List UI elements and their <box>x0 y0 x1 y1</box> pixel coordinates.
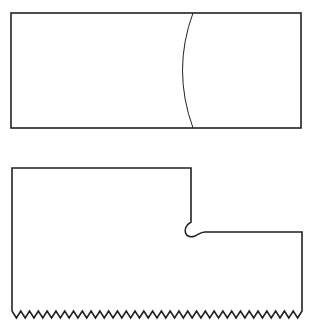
top-rectangle <box>11 13 301 128</box>
bottom-stepped-shape <box>12 168 302 318</box>
stepped-piece-outline <box>12 168 302 318</box>
curved-dividing-line <box>183 13 194 128</box>
top-rectangle-shape <box>11 13 301 128</box>
diagram-canvas <box>0 0 317 330</box>
